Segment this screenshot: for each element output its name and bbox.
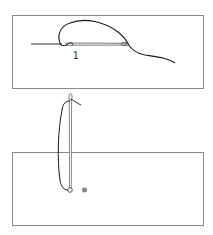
fabric-panel-2: [13, 153, 204, 226]
thread-tail-vertical: [71, 99, 81, 105]
stitch-diagram: 1: [0, 0, 213, 235]
thread-loop-vertical: [58, 101, 70, 190]
panel-1: 1: [13, 16, 204, 89]
next-point-marker: [82, 188, 87, 193]
needle-icon: [31, 42, 129, 45]
panel-2: [13, 94, 204, 226]
entry-point-marker: [68, 188, 73, 193]
thread-loop: [59, 20, 128, 45]
step-label-1: 1: [73, 50, 79, 61]
thread-tail: [128, 44, 175, 63]
needle-vertical-icon: [69, 94, 72, 189]
